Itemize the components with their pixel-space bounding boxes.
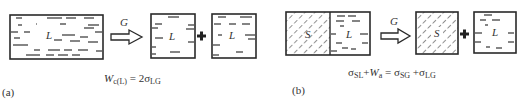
eq-sigma-sg-subscript: SG	[400, 71, 410, 80]
eq-work-symbol: W	[370, 66, 379, 78]
panel-a-liquid-block	[10, 15, 103, 59]
panel-b-equation: σSL+Wa = σSG +σLG	[348, 66, 436, 80]
eq-equals: = σ	[382, 66, 400, 78]
eq-rhs: = 2σ	[127, 72, 150, 84]
eq-sigma-lg-subscript: LG	[425, 71, 436, 80]
panel-b-caption: (b)	[292, 84, 305, 96]
panel-b-arrow-label: G	[390, 15, 398, 27]
panel-a-piece2-label: L	[229, 29, 235, 41]
eq-work-symbol: W	[104, 72, 113, 84]
panel-b-arrow-icon	[381, 29, 410, 43]
eq-work-subscript: c(L)	[113, 77, 127, 86]
panel-a-plus-icon	[197, 32, 206, 41]
panel-b-solid-piece-label: S	[434, 27, 440, 39]
panel-a-arrow-label: G	[120, 16, 128, 28]
panel-b-solid-liquid-block	[286, 12, 370, 55]
eq-sigma-subscript: LG	[150, 77, 161, 86]
panel-b-liquid-label: L	[346, 28, 352, 40]
panel-b-solid-label: S	[305, 28, 311, 40]
eq-plus-sigma: +σ	[410, 66, 425, 78]
panel-a-arrow-icon	[111, 30, 142, 44]
panel-a-caption: (a)	[2, 86, 14, 98]
panel-b-plus-icon	[460, 30, 469, 39]
panel-a-piece1-label: L	[169, 30, 175, 42]
panel-a-equation: Wc(L) = 2σLG	[104, 72, 161, 86]
panel-b-liquid-piece-label: L	[492, 26, 498, 38]
diagram-canvas	[0, 0, 526, 104]
panel-a-liquid-label: L	[46, 29, 52, 41]
eq-sigma-sl-subscript: SL	[354, 71, 363, 80]
